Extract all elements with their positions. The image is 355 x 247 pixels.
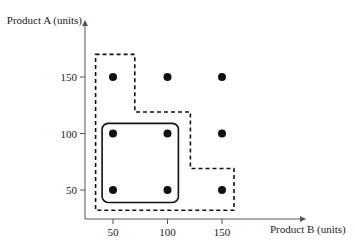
data-point [109,73,117,81]
data-points [109,73,226,194]
production-possibility-diagram: Product A (units) Product B (units) 5010… [0,0,355,247]
data-point [164,186,172,194]
y-tick-label: 50 [66,184,78,196]
data-point [164,73,172,81]
axis-ticks: 5010015050100150 [61,71,231,238]
x-tick-label: 100 [159,226,176,238]
data-point [218,186,226,194]
data-point [164,130,172,138]
y-tick-label: 100 [61,128,78,140]
data-point [109,130,117,138]
data-point [109,186,117,194]
data-point [218,130,226,138]
data-point [218,73,226,81]
y-tick-label: 150 [61,71,78,83]
x-axis-label: Product B (units) [270,223,346,236]
y-axis-label: Product A (units) [7,14,83,27]
x-tick-label: 150 [214,226,231,238]
x-tick-label: 50 [108,226,120,238]
